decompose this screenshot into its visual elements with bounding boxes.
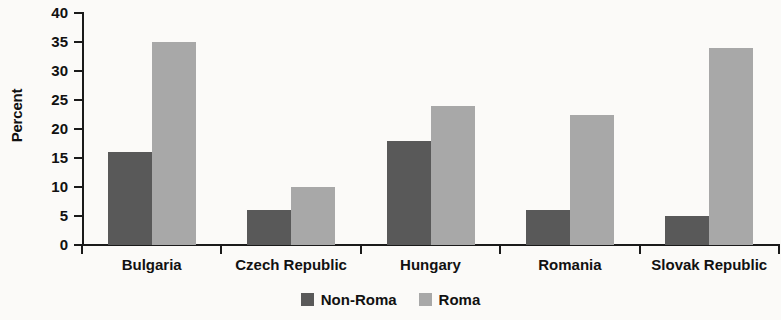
bar-chart: Percent 4035302520151050 BulgariaCzech R…: [0, 0, 781, 320]
y-axis-tick-label: 5: [34, 208, 68, 223]
y-axis-tick-label: 10: [34, 179, 68, 194]
y-axis-tick-label: 15: [34, 150, 68, 165]
legend-item-non-roma[interactable]: Non-Roma: [301, 292, 397, 307]
x-axis-tick: [220, 245, 222, 254]
bars-layer: [82, 13, 779, 245]
legend-label: Non-Roma: [321, 292, 397, 307]
x-axis-label-romania: Romania: [500, 256, 639, 273]
bar-non-roma-czech-republic: [247, 210, 291, 245]
x-axis-label-hungary: Hungary: [361, 256, 500, 273]
bar-roma-hungary: [431, 106, 475, 245]
x-axis-tick: [639, 245, 641, 254]
legend-swatch-icon: [419, 293, 432, 306]
bar-roma-czech-republic: [291, 187, 335, 245]
y-axis-tick-label: 20: [34, 121, 68, 136]
x-axis-label-czech-republic: Czech Republic: [221, 256, 360, 273]
y-axis-tick-label: 35: [34, 34, 68, 49]
y-axis-tick-label: 0: [34, 237, 68, 252]
x-axis-tick: [778, 245, 780, 254]
legend-label: Roma: [439, 292, 481, 307]
x-axis-tick: [499, 245, 501, 254]
legend-item-roma[interactable]: Roma: [419, 292, 481, 307]
bar-roma-romania: [570, 115, 614, 246]
x-axis-label-slovak-republic: Slovak Republic: [640, 256, 779, 273]
y-axis-tick-label: 25: [34, 92, 68, 107]
y-axis-tick-label: 30: [34, 63, 68, 78]
x-axis-tick: [360, 245, 362, 254]
y-axis-tick-label: 40: [34, 5, 68, 20]
bar-non-roma-slovak-republic: [665, 216, 709, 245]
y-axis-title: Percent: [8, 66, 25, 166]
x-axis-tick: [81, 245, 83, 254]
bar-non-roma-romania: [526, 210, 570, 245]
x-axis-label-bulgaria: Bulgaria: [82, 256, 221, 273]
bar-roma-slovak-republic: [709, 48, 753, 245]
bar-non-roma-bulgaria: [108, 152, 152, 245]
bar-roma-bulgaria: [152, 42, 196, 245]
chart-legend: Non-RomaRoma: [0, 292, 781, 307]
bar-non-roma-hungary: [387, 141, 431, 245]
legend-swatch-icon: [301, 293, 314, 306]
